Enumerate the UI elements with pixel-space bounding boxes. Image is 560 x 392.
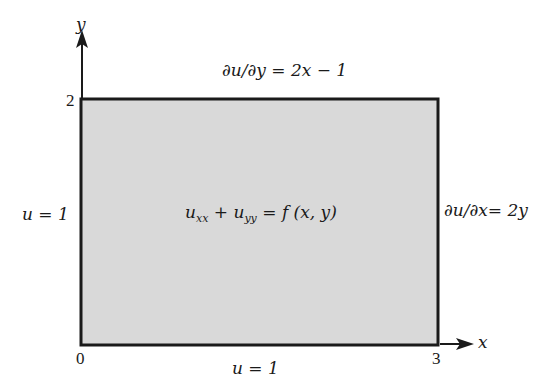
pde-term1-subscript: xx: [196, 212, 208, 225]
pde-plus: +: [214, 202, 228, 222]
pde-rhs: = f (x, y): [262, 202, 337, 222]
right-boundary-condition: ∂u/∂x= 2y: [444, 202, 528, 219]
pde-equation: uxx + uyy = f (x, y): [185, 204, 337, 224]
x-max-tick-label: 3: [432, 350, 441, 367]
pde-term2-subscript: yy: [244, 212, 256, 225]
y-max-tick-label: 2: [66, 92, 75, 109]
bottom-boundary-condition: u = 1: [232, 360, 279, 377]
diagram-canvas: [0, 0, 560, 392]
x-axis-label: x: [478, 334, 488, 351]
pde-term1-base: u: [185, 202, 196, 222]
left-boundary-condition: u = 1: [22, 206, 69, 223]
y-axis-label: y: [76, 16, 86, 33]
origin-label: 0: [76, 350, 85, 367]
pde-term2-base: u: [233, 202, 244, 222]
top-boundary-condition: ∂u/∂y = 2x − 1: [222, 62, 347, 79]
